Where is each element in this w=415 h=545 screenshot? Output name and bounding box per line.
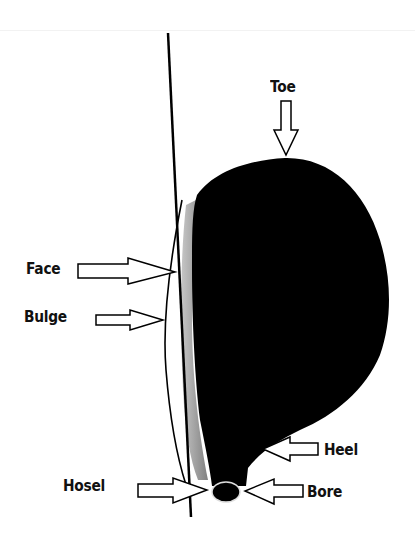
- toe-arrow: [274, 101, 298, 155]
- label-bulge: Bulge: [24, 308, 67, 326]
- club-head-diagram: [0, 0, 415, 545]
- label-heel: Heel: [324, 441, 358, 459]
- label-bore: Bore: [307, 483, 342, 501]
- label-toe: Toe: [270, 78, 296, 96]
- label-hosel: Hosel: [63, 477, 105, 495]
- label-face: Face: [26, 260, 60, 278]
- hosel-arrow: [138, 478, 207, 503]
- bore-arrow: [245, 479, 303, 504]
- bore-opening: [212, 482, 240, 502]
- face-arrow: [78, 258, 175, 284]
- bulge-arrow: [96, 310, 163, 330]
